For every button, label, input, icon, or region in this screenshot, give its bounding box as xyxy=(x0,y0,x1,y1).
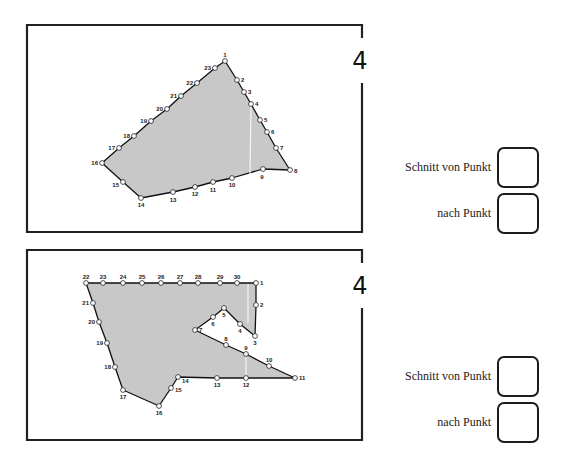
point-label: 25 xyxy=(139,274,146,280)
point-label: 15 xyxy=(112,182,119,188)
from-point-input[interactable] xyxy=(497,147,539,188)
point-label: 1 xyxy=(223,52,227,58)
point-marker-16[interactable] xyxy=(100,161,105,166)
point-label: 14 xyxy=(138,202,145,208)
point-marker-12[interactable] xyxy=(193,185,198,190)
answer-row-to: nach Punkt xyxy=(381,402,539,443)
point-marker-9[interactable] xyxy=(244,352,249,357)
point-marker-22[interactable] xyxy=(195,81,200,86)
point-label: 16 xyxy=(91,160,98,166)
point-marker-13[interactable] xyxy=(171,190,176,195)
point-marker-7[interactable] xyxy=(274,146,279,151)
point-label: 3 xyxy=(248,89,252,95)
point-marker-2[interactable] xyxy=(254,303,259,308)
point-marker-21[interactable] xyxy=(179,94,184,99)
point-marker-9[interactable] xyxy=(261,167,266,172)
exercise-1: 41234567891011121314151617181920212223 xyxy=(27,25,368,232)
point-marker-25[interactable] xyxy=(140,281,145,286)
point-label: 10 xyxy=(266,357,273,363)
point-marker-15[interactable] xyxy=(121,180,126,185)
point-marker-12[interactable] xyxy=(244,376,249,381)
point-label: 15 xyxy=(175,387,182,393)
point-marker-20[interactable] xyxy=(97,320,102,325)
point-marker-3[interactable] xyxy=(242,90,247,95)
point-marker-10[interactable] xyxy=(267,364,272,369)
point-marker-23[interactable] xyxy=(101,281,106,286)
point-marker-11[interactable] xyxy=(211,180,216,185)
point-label: 9 xyxy=(260,174,264,180)
point-marker-24[interactable] xyxy=(121,281,126,286)
point-marker-14[interactable] xyxy=(176,375,181,380)
point-marker-2[interactable] xyxy=(235,78,240,83)
point-label: 20 xyxy=(156,106,163,112)
answer-row-to: nach Punkt xyxy=(381,193,539,234)
point-label: 20 xyxy=(88,319,95,325)
point-label: 11 xyxy=(210,187,217,193)
point-marker-19[interactable] xyxy=(149,119,154,124)
point-label: 8 xyxy=(224,336,228,342)
point-marker-10[interactable] xyxy=(230,176,235,181)
point-label: 22 xyxy=(83,274,90,280)
point-marker-6[interactable] xyxy=(265,130,270,135)
point-label: 7 xyxy=(199,327,203,333)
point-marker-15[interactable] xyxy=(169,386,174,391)
point-marker-23[interactable] xyxy=(213,66,218,71)
point-marker-22[interactable] xyxy=(84,281,89,286)
point-label: 12 xyxy=(192,191,199,197)
answer-row-from: Schnitt von Punkt xyxy=(381,356,539,397)
point-label: 12 xyxy=(243,382,250,388)
point-label: 21 xyxy=(170,93,177,99)
exercise-number: 4 xyxy=(352,47,367,75)
point-marker-7[interactable] xyxy=(193,328,198,333)
point-marker-4[interactable] xyxy=(238,322,243,327)
point-marker-6[interactable] xyxy=(211,315,216,320)
point-marker-19[interactable] xyxy=(105,341,110,346)
point-marker-8[interactable] xyxy=(224,343,229,348)
point-label: 4 xyxy=(255,101,259,107)
point-label: 17 xyxy=(108,145,115,151)
exercise-number: 4 xyxy=(352,272,367,300)
point-label: 9 xyxy=(244,345,248,351)
point-marker-16[interactable] xyxy=(157,404,162,409)
point-label: 19 xyxy=(140,118,147,124)
point-marker-8[interactable] xyxy=(288,168,293,173)
point-marker-3[interactable] xyxy=(253,334,258,339)
point-label: 23 xyxy=(204,65,211,71)
point-marker-30[interactable] xyxy=(235,281,240,286)
point-marker-14[interactable] xyxy=(139,196,144,201)
point-label: 1 xyxy=(260,280,264,286)
shape-polygon xyxy=(86,283,295,406)
point-marker-21[interactable] xyxy=(91,301,96,306)
point-marker-5[interactable] xyxy=(222,306,227,311)
point-label: 22 xyxy=(186,80,193,86)
answer-row-from: Schnitt von Punkt xyxy=(381,147,539,188)
from-label: Schnitt von Punkt xyxy=(381,369,491,384)
from-point-input[interactable] xyxy=(497,356,539,397)
point-marker-1[interactable] xyxy=(254,281,259,286)
point-marker-20[interactable] xyxy=(165,107,170,112)
point-label: 2 xyxy=(260,302,264,308)
point-marker-27[interactable] xyxy=(178,281,183,286)
point-marker-28[interactable] xyxy=(196,281,201,286)
point-label: 26 xyxy=(158,274,165,280)
point-label: 13 xyxy=(170,197,177,203)
point-label: 24 xyxy=(120,274,127,280)
point-marker-18[interactable] xyxy=(132,134,137,139)
point-marker-26[interactable] xyxy=(159,281,164,286)
to-point-input[interactable] xyxy=(497,193,539,234)
point-marker-17[interactable] xyxy=(117,146,122,151)
point-marker-17[interactable] xyxy=(121,388,126,393)
from-label: Schnitt von Punkt xyxy=(381,160,491,175)
point-marker-5[interactable] xyxy=(258,118,263,123)
point-marker-4[interactable] xyxy=(249,102,254,107)
point-marker-13[interactable] xyxy=(215,376,220,381)
point-marker-11[interactable] xyxy=(293,376,298,381)
point-marker-18[interactable] xyxy=(113,365,118,370)
point-label: 8 xyxy=(294,168,298,174)
point-label: 6 xyxy=(271,129,275,135)
point-label: 21 xyxy=(82,300,89,306)
point-marker-1[interactable] xyxy=(223,59,228,64)
point-marker-29[interactable] xyxy=(218,281,223,286)
to-point-input[interactable] xyxy=(497,402,539,443)
point-label: 30 xyxy=(234,274,241,280)
